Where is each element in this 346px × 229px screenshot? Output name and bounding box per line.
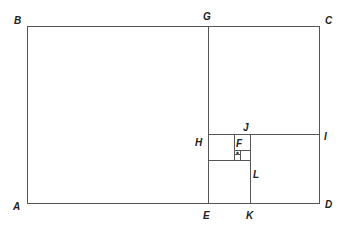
- label-A: A: [12, 201, 20, 212]
- label-G: G: [203, 11, 211, 22]
- label-F: F: [236, 138, 243, 149]
- label-L: L: [253, 169, 259, 180]
- label-D: D: [325, 199, 332, 210]
- spiral-center-dot: [236, 152, 238, 154]
- label-B: B: [14, 15, 21, 26]
- label-C: C: [325, 15, 333, 26]
- label-H: H: [195, 137, 203, 148]
- golden-rectangle-diagram: B G C A E K D H J I F L: [0, 0, 346, 229]
- label-K: K: [246, 210, 254, 221]
- outer-rectangle: [28, 27, 320, 204]
- label-E: E: [203, 210, 210, 221]
- label-I: I: [324, 131, 327, 142]
- label-J: J: [243, 122, 249, 133]
